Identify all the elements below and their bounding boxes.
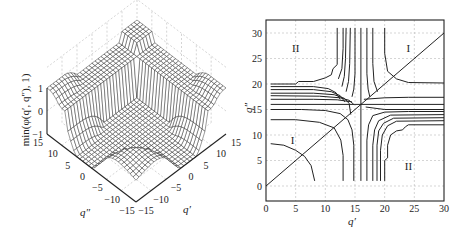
contour-line [381,121,445,181]
contour-line [364,97,444,99]
y-tick-label: 0 [257,181,262,192]
x-tick-label: 5 [204,160,209,171]
region-label: II [405,160,413,172]
x-tick-label: 0 [189,171,194,182]
contour-xlabel: q′ [348,215,357,227]
y-tick-label: −5 [92,182,103,193]
x-tick-label: 25 [409,203,419,214]
x-tick-label: 5 [293,203,298,214]
contour-line [367,28,370,97]
y-tick-label: −15 [119,205,135,216]
y-tick-label: 25 [252,53,262,64]
contour-line [352,28,355,97]
y-tick-label: 10 [48,148,58,159]
z-tick-label: −1 [32,129,43,140]
y-tick-label: −10 [104,194,120,205]
y-tick-label: 10 [252,130,262,141]
region-label: I [407,42,411,54]
x-tick-label: 30 [439,203,449,214]
region-label: II [292,42,300,54]
y-tick-label: 20 [252,79,262,90]
x-tick-label: −10 [153,194,169,205]
surface-xlabel: q′ [183,203,192,215]
x-tick-label: −5 [171,182,182,193]
z-tick-label: 0 [38,106,43,117]
x-tick-label: 20 [380,203,390,214]
contour-line [338,28,343,79]
y-tick-label: 5 [257,155,262,166]
x-tick-label: 10 [216,148,226,159]
surface-plot-3d: −15−10−5051015−15−10−5051015−101 min(φ(q… [19,0,241,218]
x-tick-label: 10 [320,203,330,214]
y-tick-label: 5 [65,160,70,171]
zlabel: min(φ(q′, q″), 1) [19,73,32,146]
surface-mesh [47,20,226,180]
x-tick-label: −15 [138,205,154,216]
contour-line [271,28,338,84]
contour-line [366,107,444,110]
contour-line [346,28,350,92]
y-tick-label: 0 [80,171,85,182]
region-labels: IIIIII [291,42,413,171]
x-tick-label: 0 [264,203,269,214]
contour-ylabel: q″ [242,103,254,114]
z-tick-label: 1 [38,83,43,94]
region-label: I [291,134,295,146]
x-tick-label: 15 [350,203,360,214]
contour-line [271,99,352,102]
contour-line [373,28,378,92]
x-tick-label: 15 [231,137,241,148]
figure: −15−10−5051015−15−10−5051015−101 min(φ(q… [0,0,462,237]
contour-plot: IIIIII 051015202530051015202530 q′ q″ [242,20,449,227]
y-tick-label: 30 [252,28,262,39]
surface-ylabel: q″ [80,206,91,218]
